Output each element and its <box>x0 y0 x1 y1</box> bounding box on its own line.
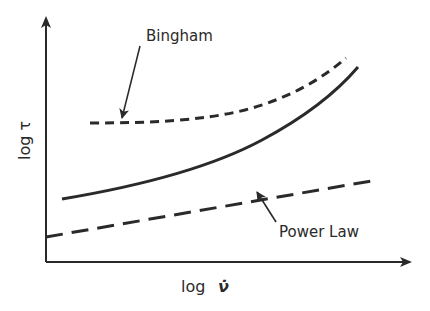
general-flow-curve <box>62 67 358 199</box>
power-law-label: Power Law <box>279 223 359 241</box>
power-law-pointer-arrow <box>257 192 276 222</box>
y-axis-label: log τ <box>15 121 34 160</box>
bingham-label: Bingham <box>146 27 213 45</box>
bingham-pointer-arrow <box>122 46 140 118</box>
x-axis-label: log <box>181 277 205 296</box>
rheology-diagram: Bingham Power Law log τ log ν̇ <box>0 0 430 311</box>
x-axis-label-symbol: ν̇ <box>218 277 229 296</box>
